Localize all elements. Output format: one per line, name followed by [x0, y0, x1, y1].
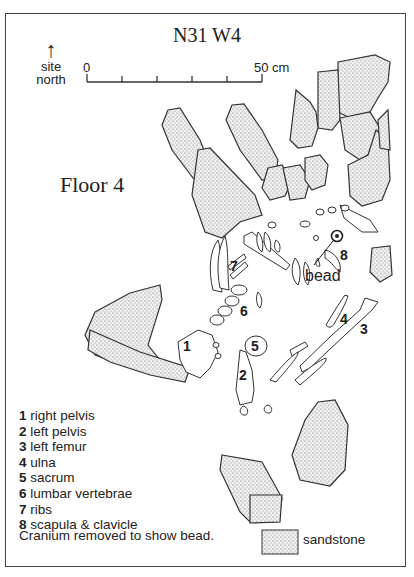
north-arrow: ↑ site north — [28, 40, 74, 86]
legend: 1 right pelvis 2 left pelvis 3 left femu… — [19, 408, 138, 533]
legend-item: 3 left femur — [19, 439, 138, 455]
label-4: 4 — [340, 311, 348, 327]
legend-item: 7 ribs — [19, 502, 138, 518]
legend-item: 1 right pelvis — [19, 408, 138, 424]
bead-label: bead — [305, 267, 341, 284]
cranium-note: Cranium removed to show bead. — [19, 528, 214, 543]
up-arrow-icon: ↑ — [28, 40, 74, 60]
label-5: 5 — [251, 338, 259, 354]
label-6: 6 — [240, 303, 248, 319]
label-8: 8 — [340, 247, 348, 263]
scale-bar — [87, 74, 262, 82]
scale-start: 0 — [83, 60, 90, 75]
label-7: 7 — [230, 258, 238, 274]
floor-label: Floor 4 — [60, 172, 124, 198]
legend-item: 4 ulna — [19, 455, 138, 471]
north-line2: north — [28, 73, 74, 86]
legend-item: 2 left pelvis — [19, 424, 138, 440]
bones — [178, 205, 378, 415]
sandstone-swatch — [262, 530, 298, 554]
legend-item: 5 sacrum — [19, 470, 138, 486]
legend-item: 6 lumbar vertebrae — [19, 486, 138, 502]
scale-end: 50 cm — [254, 60, 289, 75]
sandstone-label: sandstone — [303, 532, 365, 547]
label-2: 2 — [239, 367, 247, 383]
label-3: 3 — [360, 321, 368, 337]
label-1: 1 — [183, 338, 191, 354]
